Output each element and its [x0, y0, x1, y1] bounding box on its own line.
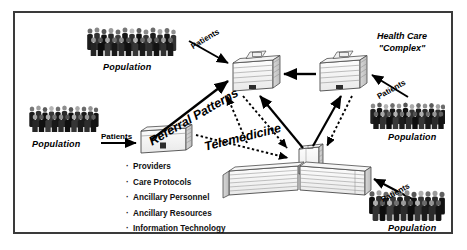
- bullet-icon: ·: [126, 194, 133, 202]
- list-item-label: Ancillary Personnel: [133, 193, 209, 202]
- capability-list: ·Providers ·Care Protocols ·Ancillary Pe…: [126, 163, 276, 241]
- arrow-referral-complex-to-right: [313, 96, 341, 146]
- list-item: ·Care Protocols: [126, 179, 276, 187]
- list-item: ·Ancillary Resources: [126, 210, 276, 218]
- label-patients-left: Patients: [101, 133, 132, 141]
- list-item: ·Ancillary Personnel: [126, 194, 276, 202]
- list-item: ·Information Technology: [126, 225, 276, 233]
- crowd-population-right-lower: [368, 189, 448, 221]
- diagram-figure: Population Population Population Populat…: [0, 0, 467, 250]
- label-health-care-line1: Health Care: [377, 30, 427, 42]
- arrow-telemedicine-right-to-complex: [327, 96, 352, 146]
- crowd-population-top-left: [86, 26, 178, 56]
- bullet-icon: ·: [126, 225, 133, 233]
- list-item-label: Care Protocols: [133, 178, 191, 187]
- bullet-icon: ·: [126, 179, 133, 187]
- bullet-icon: ·: [126, 163, 133, 171]
- label-population-right-upper: Population: [388, 133, 437, 142]
- list-item-label: Information Technology: [133, 224, 226, 233]
- label-population-right-lower: Population: [388, 224, 437, 233]
- label-population-left: Population: [32, 140, 81, 149]
- list-item: ·Providers: [126, 163, 276, 171]
- bullet-icon: ·: [126, 210, 133, 218]
- label-health-care-line2: "Complex": [377, 42, 427, 54]
- crowd-population-left: [28, 104, 100, 132]
- label-health-care-complex: Health Care "Complex": [377, 30, 427, 54]
- node-hospital-right: [320, 51, 367, 91]
- crowd-population-right-upper: [369, 101, 445, 129]
- label-population-top-left: Population: [103, 63, 152, 72]
- list-item-label: Providers: [133, 162, 171, 171]
- node-hospital-center: [233, 51, 280, 91]
- list-item-label: Ancillary Resources: [133, 209, 212, 218]
